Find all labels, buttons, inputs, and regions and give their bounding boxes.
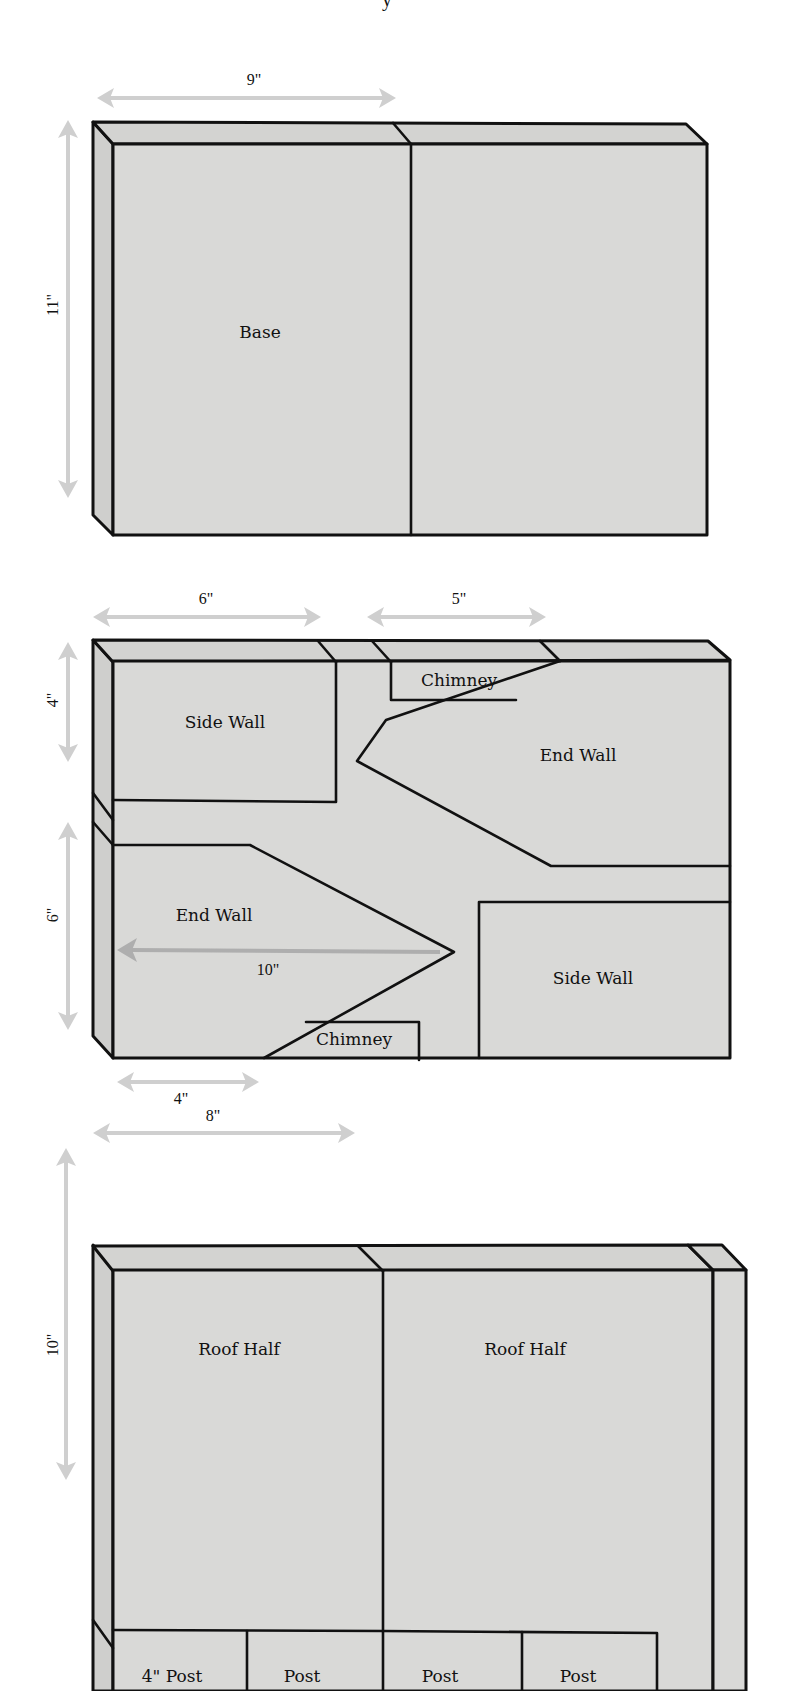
cut-plan-diagram: y Base 9" 11": [0, 0, 795, 1691]
dimension-label: 10": [257, 961, 280, 978]
roof-board-face: [113, 1270, 713, 1691]
dimension-label: 6": [199, 590, 214, 607]
piece-label-side-wall: Side Wall: [553, 968, 633, 988]
piece-label-end-wall: End Wall: [540, 745, 617, 765]
dimension-6in-vertical: 6": [44, 822, 78, 1030]
walls-board: Side Wall Chimney End Wall End Wall Side…: [93, 640, 730, 1060]
piece-label-roof-half: Roof Half: [198, 1339, 281, 1359]
piece-label-roof-half: Roof Half: [484, 1339, 567, 1359]
piece-label-base: Base: [239, 322, 280, 342]
piece-label-chimney: Chimney: [421, 670, 498, 690]
dimension-5in-horizontal: 5": [367, 590, 546, 627]
piece-label-chimney: Chimney: [316, 1029, 393, 1049]
dimension-label: 4": [174, 1090, 189, 1107]
piece-label-post: Post: [560, 1666, 597, 1686]
roof-board: Roof Half Roof Half 4" Post Post Post Po…: [93, 1245, 746, 1691]
dimension-9in: 9": [97, 71, 396, 108]
dimension-10in-vertical: 10": [44, 1148, 76, 1480]
dimension-4in-vertical: 4": [44, 642, 78, 762]
dimension-6in-horizontal: 6": [93, 590, 321, 627]
dimension-label: 6": [44, 908, 61, 923]
roof-board-right-edge-strip: [713, 1270, 746, 1691]
dimension-11in: 11": [44, 120, 78, 498]
base-board-left-edge: [93, 122, 113, 535]
dimension-label: 8": [206, 1107, 221, 1124]
piece-label-side-wall: Side Wall: [185, 712, 265, 732]
dimension-label: 9": [247, 71, 262, 88]
walls-board-top-edge: [93, 640, 730, 662]
roof-board-top-edge: [93, 1245, 713, 1271]
dimension-4in-horizontal: 4": [117, 1072, 259, 1107]
dimension-label: 5": [452, 590, 467, 607]
piece-label-end-wall: End Wall: [176, 905, 253, 925]
base-board: Base: [93, 122, 707, 535]
dimension-label: 11": [44, 294, 61, 316]
dimension-label: 4": [44, 693, 61, 708]
piece-label-post: Post: [284, 1666, 321, 1686]
dimension-label: 10": [44, 1334, 61, 1357]
walls-board-left-edge: [93, 640, 113, 1058]
dimension-8in-horizontal: 8": [93, 1107, 355, 1143]
cropped-heading-glyph: y: [382, 0, 392, 11]
piece-label-post: 4" Post: [142, 1666, 203, 1686]
piece-label-post: Post: [422, 1666, 459, 1686]
